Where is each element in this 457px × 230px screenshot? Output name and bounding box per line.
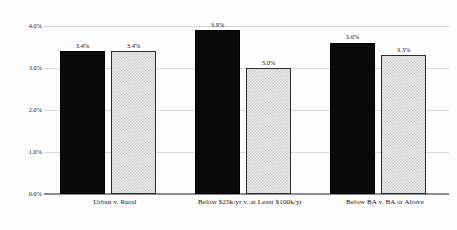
bar-series-two-group-2[interactable] xyxy=(246,68,291,194)
y-tick-label-2: 2.0% xyxy=(8,107,42,113)
y-tick-label-4: 4.0% xyxy=(8,23,42,29)
bar-value-series-two-group-1: 3.4% xyxy=(127,43,141,49)
plot-area: 3.4% 3.4% 3.9% 3.0% xyxy=(44,26,449,194)
bar-series-two-group-1[interactable] xyxy=(111,51,156,194)
y-tick-label-1: 1.0% xyxy=(8,149,42,155)
bar-series-one-group-2[interactable] xyxy=(195,30,240,194)
y-tick-label-0: 0.0% xyxy=(8,191,42,197)
bar-group-education: 3.6% 3.3% xyxy=(330,26,440,194)
x-label-urban-rural: Urban v. Rural xyxy=(93,199,136,206)
x-label-education: Below BA v. BA or Above xyxy=(346,199,424,206)
bar-value-series-one-group-3: 3.6% xyxy=(346,34,360,40)
x-label-income: Below $25k/yr v. at Least $100k/yr xyxy=(198,199,302,206)
bar-chart: 0.0% 1.0% 2.0% 3.0% 4.0% 3.4% 3.4% xyxy=(0,0,457,230)
bar-value-series-one-group-1: 3.4% xyxy=(76,43,90,49)
x-axis: Urban v. Rural Below $25k/yr v. at Least… xyxy=(44,199,449,219)
bar-value-series-one-group-2: 3.9% xyxy=(211,22,225,28)
bar-series-one-group-1[interactable] xyxy=(60,51,105,194)
bar-group-income: 3.9% 3.0% xyxy=(195,26,305,194)
bar-group-urban-rural: 3.4% 3.4% xyxy=(60,26,170,194)
y-tick-label-3: 3.0% xyxy=(8,65,42,71)
bar-groups: 3.4% 3.4% 3.9% 3.0% xyxy=(44,26,449,194)
bar-series-two-group-3[interactable] xyxy=(381,55,426,194)
y-axis: 0.0% 1.0% 2.0% 3.0% 4.0% xyxy=(0,26,42,194)
bar-value-series-two-group-3: 3.3% xyxy=(397,47,411,53)
bar-series-one-group-3[interactable] xyxy=(330,43,375,194)
bar-value-series-two-group-2: 3.0% xyxy=(262,60,276,66)
